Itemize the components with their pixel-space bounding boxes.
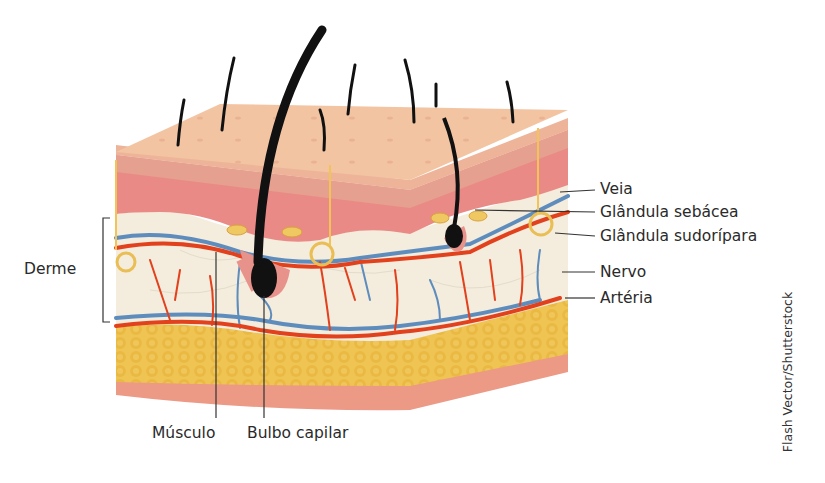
label-bulbo-capilar: Bulbo capilar	[247, 426, 348, 442]
label-musculo: Músculo	[152, 426, 215, 442]
label-nervo: Nervo	[600, 265, 646, 281]
label-derme: Derme	[24, 262, 76, 278]
image-credit: Flash Vector/Shutterstock	[780, 292, 795, 452]
label-glandula-sebacea: Glândula sebácea	[600, 205, 739, 221]
label-veia: Veia	[600, 182, 633, 198]
label-glandula-sudoripara: Glândula sudorípara	[600, 229, 757, 245]
label-arteria: Artéria	[600, 291, 653, 307]
